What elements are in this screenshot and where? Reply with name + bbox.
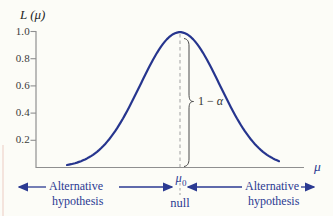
y-tick-label-1.0: 1.0	[4, 25, 30, 38]
alt-hypothesis-left-label: Alternative hypothesis	[49, 179, 103, 208]
y-axis-ticks	[31, 32, 37, 141]
y-axis-title: L (μ)	[20, 7, 45, 23]
null-label: null	[166, 196, 194, 211]
likelihood-curve	[67, 32, 279, 165]
alt-right-line2: hypothesis	[245, 194, 299, 209]
mu0-subscript: 0	[182, 178, 187, 188]
one-minus-alpha-brace	[184, 39, 194, 167]
likelihood-figure: L (μ) 1.0 0.8 0.6 0.4 0.2 μ μ0 null 1 − …	[0, 0, 333, 216]
page-edge-artifact	[2, 145, 4, 216]
y-tick-label-0.6: 0.6	[4, 79, 30, 92]
one-minus-text: 1 −	[198, 94, 217, 108]
alt-left-line1: Alternative	[49, 179, 103, 194]
x-axis-title: μ	[314, 159, 321, 175]
alt-left-line2: hypothesis	[49, 194, 103, 209]
y-tick-label-0.8: 0.8	[4, 52, 30, 65]
alt-right-line1: Alternative	[245, 179, 299, 194]
alt-hypothesis-right-label: Alternative hypothesis	[245, 179, 299, 208]
mu0-label: μ0	[170, 171, 192, 188]
alpha-symbol: α	[217, 94, 223, 108]
y-tick-label-0.4: 0.4	[4, 106, 30, 119]
one-minus-alpha-label: 1 − α	[198, 94, 223, 109]
y-tick-label-0.2: 0.2	[4, 133, 30, 146]
